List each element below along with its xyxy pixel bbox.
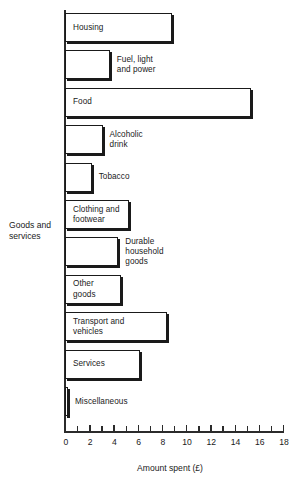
bar-row: Durable household goods <box>65 237 278 266</box>
bar <box>65 200 129 229</box>
x-axis-title-text: Amount spent (£) <box>137 463 203 473</box>
x-tick-minor <box>77 426 78 431</box>
bar-row: Housing <box>65 13 300 42</box>
x-tick-major <box>259 425 260 431</box>
x-tick-minor <box>247 426 248 431</box>
x-tick-major <box>89 425 90 431</box>
x-tick-label: 6 <box>136 437 141 447</box>
bar <box>65 125 103 154</box>
bar <box>65 237 118 266</box>
x-tick-label: 10 <box>182 437 192 447</box>
x-tick-label: 2 <box>88 437 93 447</box>
x-tick-major <box>65 425 66 431</box>
bar <box>65 350 140 379</box>
x-tick-label: 0 <box>64 437 69 447</box>
x-tick-major <box>138 425 139 431</box>
bar <box>65 88 251 117</box>
bar-row: Services <box>65 350 300 379</box>
x-axis-title: Amount spent (£) <box>0 463 300 473</box>
x-tick-label: 4 <box>112 437 117 447</box>
x-tick-label: 14 <box>231 437 241 447</box>
x-tick-minor <box>222 426 223 431</box>
x-tick-major <box>186 425 187 431</box>
bar-label: Durable household goods <box>125 237 163 268</box>
bar-row: Tobacco <box>65 163 252 192</box>
y-axis-title: Goods and services <box>9 220 61 241</box>
bar-row: Transport and vehicles <box>65 312 300 341</box>
bar-label: Miscellaneous <box>75 396 128 406</box>
x-tick-label: 8 <box>160 437 165 447</box>
bar <box>65 312 167 341</box>
x-tick-label: 18 <box>279 437 289 447</box>
x-tick-label: 12 <box>207 437 217 447</box>
x-tick-minor <box>271 426 272 431</box>
bar-label: Fuel, light and power <box>117 55 156 75</box>
x-tick-minor <box>150 426 151 431</box>
plot-area: HousingFuel, light and powerFoodAlcoholi… <box>0 0 300 486</box>
x-tick-label: 16 <box>255 437 265 447</box>
bar <box>65 275 121 304</box>
bar-chart: HousingFuel, light and powerFoodAlcoholi… <box>0 0 300 486</box>
bar-label: Tobacco <box>99 172 130 182</box>
x-tick-minor <box>174 426 175 431</box>
bar <box>65 13 172 42</box>
bar <box>65 50 110 79</box>
bar-row: Fuel, light and power <box>65 50 270 79</box>
x-tick-minor <box>198 426 199 431</box>
bar-row: Other goods <box>65 275 281 304</box>
bar-row: Clothing and footwear <box>65 200 289 229</box>
x-tick-major <box>113 425 114 431</box>
bar-row: Food <box>65 88 300 117</box>
bar <box>65 387 68 416</box>
x-tick-major <box>210 425 211 431</box>
bar-label: Alcoholic drink <box>110 129 143 149</box>
x-tick-minor <box>101 426 102 431</box>
x-tick-major <box>162 425 163 431</box>
x-axis-line <box>64 431 284 433</box>
bar-row: Miscellaneous <box>65 387 228 416</box>
x-tick-major <box>235 425 236 431</box>
x-tick-major <box>283 425 284 431</box>
bar <box>65 163 92 192</box>
bar-row: Alcoholic drink <box>65 125 263 154</box>
x-tick-minor <box>126 426 127 431</box>
